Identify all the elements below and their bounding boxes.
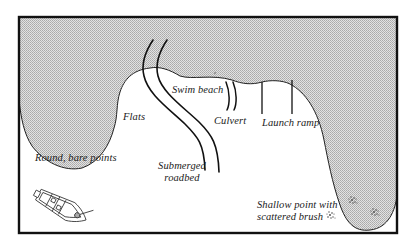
- label-shallow-point-line2: scattered brush: [257, 211, 338, 223]
- map-canvas: [0, 0, 414, 247]
- culvert-lines: [226, 82, 236, 110]
- label-culvert: Culvert: [214, 115, 246, 127]
- lake-map: Flats Swim beach Culvert Launch ramp Rou…: [0, 0, 414, 247]
- label-submerged-roadbed-line2: roadbed: [156, 172, 208, 184]
- label-submerged-roadbed-line1: Submerged: [156, 160, 208, 172]
- water-area: [19, 17, 397, 230]
- water-body: [19, 17, 397, 230]
- label-round-bare-points: Round, bare points: [35, 152, 117, 164]
- label-flats: Flats: [123, 111, 145, 123]
- label-swim-beach: Swim beach: [172, 84, 223, 96]
- label-launch-ramp: Launch ramp: [262, 117, 319, 129]
- water-speck: [214, 72, 216, 74]
- label-submerged-roadbed: Submerged roadbed: [156, 160, 208, 184]
- label-shallow-point: Shallow point with scattered brush: [257, 199, 338, 223]
- boat-icon: [30, 182, 93, 230]
- label-shallow-point-line1: Shallow point with: [257, 199, 338, 211]
- launch-ramp-lines: [262, 80, 292, 114]
